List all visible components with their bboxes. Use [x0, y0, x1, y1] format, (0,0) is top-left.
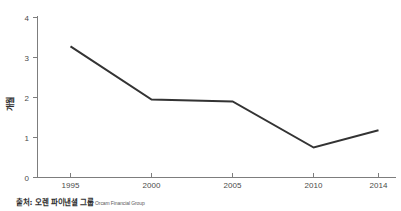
x-tick-label-1995: 1995 [62, 181, 80, 190]
line-chart: 0 1 2 3 4 1995 2000 2005 2010 2014 개월 출처… [0, 0, 401, 211]
y-tick-label-0: 0 [25, 174, 30, 183]
y-tick-label-1: 1 [25, 134, 30, 143]
x-tick-marks [71, 173, 379, 178]
x-tick-label-2000: 2000 [143, 181, 161, 190]
data-series-line [71, 46, 379, 147]
y-tick-label-4: 4 [25, 14, 30, 23]
source-caption-korean: 출처: 오렌 파이낸셜 그룹 [16, 198, 94, 207]
y-axis-title: 개월 [5, 97, 15, 111]
x-tick-label-2010: 2010 [305, 181, 323, 190]
y-tick-marks [33, 18, 38, 178]
chart-canvas: 0 1 2 3 4 1995 2000 2005 2010 2014 개월 [0, 0, 401, 211]
y-tick-label-2: 2 [25, 94, 30, 103]
y-tick-label-3: 3 [25, 54, 30, 63]
x-tick-label-2014: 2014 [370, 181, 388, 190]
x-tick-label-2005: 2005 [224, 181, 242, 190]
source-caption: 출처: 오렌 파이낸셜 그룹Orcam Financial Group [16, 192, 145, 208]
source-caption-english: Orcam Financial Group [95, 200, 145, 206]
